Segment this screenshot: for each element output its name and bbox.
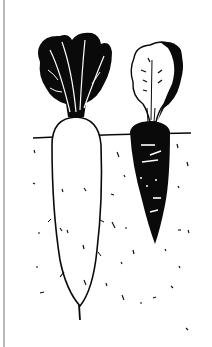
carrot-leaves xyxy=(131,42,183,122)
radish-body xyxy=(52,117,102,306)
carrot-body xyxy=(130,121,170,244)
radish-leaves xyxy=(38,33,112,117)
vegetable-illustration xyxy=(0,0,212,347)
radish-tail xyxy=(79,305,80,320)
